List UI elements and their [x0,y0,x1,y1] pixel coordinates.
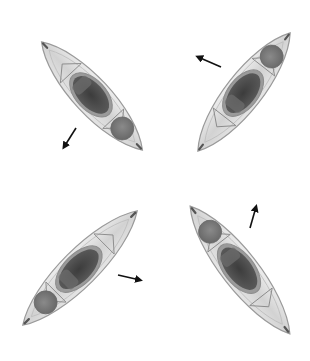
arrow-top-right-icon [198,57,221,67]
kayak-diagram [0,0,310,361]
kayak-top-left [28,30,155,163]
kayak-top-right [184,22,305,163]
arrow-bottom-left-icon [118,275,140,280]
kayak-bottom-left [10,198,150,338]
arrow-bottom-right-icon [250,207,256,228]
kayak-bottom-right [176,195,304,345]
arrow-top-left-icon [64,128,76,147]
